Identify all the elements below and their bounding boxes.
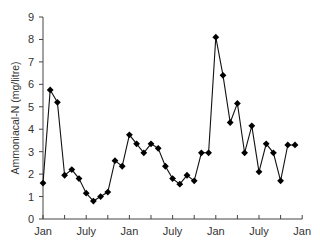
line-chart: 0123456789 JanJulyJanJulyJanJulyJan Ammo… <box>0 0 320 249</box>
y-tick-label: 4 <box>28 123 34 135</box>
data-line <box>43 37 295 201</box>
data-point-marker <box>40 180 47 187</box>
data-point-marker <box>205 149 212 156</box>
y-axis: 0123456789 <box>28 11 43 225</box>
y-axis-label: Ammoniacal-N (mg/litre) <box>9 61 21 174</box>
x-tick-label: July <box>76 225 96 237</box>
data-point-marker <box>234 100 241 107</box>
data-point-marker <box>248 122 255 129</box>
data-point-marker <box>256 168 263 175</box>
x-tick-label: Jan <box>34 225 52 237</box>
x-tick-label: July <box>163 225 183 237</box>
data-point-marker <box>277 177 284 184</box>
y-tick-label: 7 <box>28 56 34 68</box>
y-tick-label: 1 <box>28 191 34 203</box>
y-tick-label: 3 <box>28 146 34 158</box>
data-point-marker <box>292 142 299 149</box>
data-point-marker <box>97 193 104 200</box>
data-point-marker <box>227 119 234 126</box>
data-point-marker <box>212 34 219 41</box>
data-point-marker <box>198 149 205 156</box>
y-tick-label: 2 <box>28 168 34 180</box>
y-tick-label: 5 <box>28 101 34 113</box>
y-tick-label: 9 <box>28 11 34 23</box>
data-point-marker <box>104 189 111 196</box>
data-point-marker <box>47 87 54 94</box>
y-tick-label: 6 <box>28 78 34 90</box>
data-point-marker <box>284 142 291 149</box>
x-tick-label: Jan <box>121 225 139 237</box>
data-point-marker <box>155 145 162 152</box>
y-tick-label: 0 <box>28 213 34 225</box>
x-tick-label: Jan <box>293 225 311 237</box>
data-markers <box>40 34 299 205</box>
y-tick-label: 8 <box>28 33 34 45</box>
data-point-marker <box>220 72 227 79</box>
x-tick-label: July <box>249 225 269 237</box>
data-point-marker <box>162 163 169 170</box>
data-point-marker <box>54 99 61 106</box>
data-point-marker <box>241 149 248 156</box>
x-axis: JanJulyJanJulyJanJulyJan <box>34 215 311 237</box>
x-tick-label: Jan <box>207 225 225 237</box>
